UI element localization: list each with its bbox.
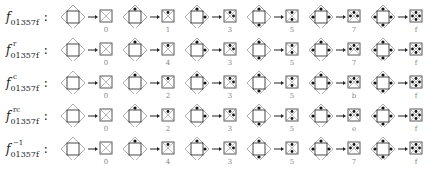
diamond-to-box-icon [60, 4, 122, 28]
mapping-pair: 0 [60, 37, 122, 69]
hex-label: 0 [99, 125, 113, 133]
function-label: fc01357f : [6, 76, 58, 90]
mapping-pair: 3 [184, 4, 246, 36]
diamond-to-box-icon [246, 4, 308, 28]
diamond-to-box-icon [184, 4, 246, 28]
hex-label: 0 [99, 92, 113, 100]
function-row: f01357f :01357f [0, 4, 440, 36]
mapping-pair: e [308, 103, 370, 135]
diamond-to-box-icon [246, 103, 308, 127]
hex-label: 7 [347, 59, 361, 67]
hex-label: 3 [223, 158, 237, 166]
diamond-to-box-icon [122, 70, 184, 94]
colon: : [40, 109, 48, 123]
hex-label: 5 [285, 26, 299, 34]
diamond-to-box-icon [370, 103, 432, 127]
diamond-to-box-icon [246, 136, 308, 160]
mapping-pair: 0 [60, 136, 122, 168]
mapping-pair: 5 [246, 136, 308, 168]
mapping-pair: b [308, 70, 370, 102]
colon: : [40, 76, 48, 90]
hex-label: f [409, 26, 423, 34]
hex-label: 2 [161, 125, 175, 133]
mapping-pair: 7 [308, 136, 370, 168]
transformation-diagram: f01357f :01357ffr01357f :04357ffc01357f … [0, 0, 440, 173]
hex-label: 3 [223, 26, 237, 34]
function-superscript: −1 [13, 139, 23, 147]
function-subscript: 01357f [10, 117, 38, 126]
colon: : [40, 142, 48, 156]
diamond-to-box-icon [246, 37, 308, 61]
function-label: fr01357f : [6, 43, 58, 57]
diamond-to-box-icon [122, 4, 184, 28]
mapping-pair: f [370, 37, 432, 69]
mapping-pair: f [370, 136, 432, 168]
mapping-pair: 7 [308, 37, 370, 69]
diamond-to-box-icon [184, 37, 246, 61]
hex-label: 4 [161, 59, 175, 67]
function-row: fc01357f :0235bf [0, 70, 440, 102]
hex-label: 5 [285, 125, 299, 133]
hex-label: 0 [99, 26, 113, 34]
mapping-pair: 3 [184, 70, 246, 102]
mapping-pair: 0 [60, 103, 122, 135]
diamond-to-box-icon [122, 136, 184, 160]
diamond-to-box-icon [184, 103, 246, 127]
function-superscript: rc [13, 106, 20, 114]
diamond-to-box-icon [370, 136, 432, 160]
mapping-pair: 4 [122, 37, 184, 69]
hex-label: 3 [223, 92, 237, 100]
hex-label: e [347, 125, 361, 133]
mapping-pair: 3 [184, 103, 246, 135]
mapping-pair: 2 [122, 70, 184, 102]
diamond-to-box-icon [308, 136, 370, 160]
hex-label: 5 [285, 92, 299, 100]
diamond-to-box-icon [370, 37, 432, 61]
diamond-to-box-icon [308, 37, 370, 61]
hex-label: 2 [161, 92, 175, 100]
mapping-pair: 2 [122, 103, 184, 135]
hex-label: 5 [285, 59, 299, 67]
mapping-pair: 5 [246, 37, 308, 69]
colon: : [40, 10, 48, 24]
diamond-to-box-icon [370, 70, 432, 94]
diamond-to-box-icon [308, 70, 370, 94]
diamond-to-box-icon [370, 4, 432, 28]
hex-label: 3 [223, 125, 237, 133]
function-label: f−101357f : [6, 142, 58, 156]
hex-label: 3 [223, 59, 237, 67]
diamond-to-box-icon [246, 70, 308, 94]
hex-label: 7 [347, 158, 361, 166]
function-subscript: 01357f [10, 51, 38, 60]
mapping-pair: 7 [308, 4, 370, 36]
diamond-to-box-icon [184, 70, 246, 94]
function-superscript: r [13, 40, 16, 48]
function-row: f−101357f :04357f [0, 136, 440, 168]
colon: : [40, 43, 48, 57]
hex-label: b [347, 92, 361, 100]
diamond-to-box-icon [122, 37, 184, 61]
mapping-pair: 0 [60, 70, 122, 102]
mapping-pair: 0 [60, 4, 122, 36]
mapping-pair: f [370, 103, 432, 135]
hex-label: f [409, 158, 423, 166]
hex-label: 5 [285, 158, 299, 166]
diamond-to-box-icon [60, 136, 122, 160]
function-row: fr01357f :04357f [0, 37, 440, 69]
mapping-pair: f [370, 70, 432, 102]
hex-label: f [409, 92, 423, 100]
hex-label: f [409, 125, 423, 133]
diamond-to-box-icon [308, 4, 370, 28]
mapping-pair: 3 [184, 136, 246, 168]
hex-label: 4 [161, 158, 175, 166]
hex-label: f [409, 59, 423, 67]
mapping-pair: 5 [246, 70, 308, 102]
diamond-to-box-icon [308, 103, 370, 127]
hex-label: 0 [99, 158, 113, 166]
mapping-pair: f [370, 4, 432, 36]
hex-label: 1 [161, 26, 175, 34]
function-superscript: c [13, 73, 17, 81]
mapping-pair: 5 [246, 103, 308, 135]
diamond-to-box-icon [60, 103, 122, 127]
diamond-to-box-icon [60, 70, 122, 94]
